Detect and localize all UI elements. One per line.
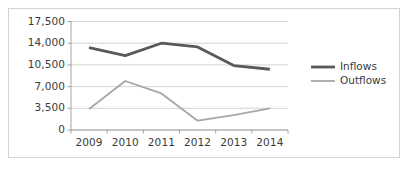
y-axis-tick-marks: [68, 22, 72, 131]
legend-label-inflows: Inflows: [340, 60, 377, 72]
x-axis-tick-label: 2009: [69, 136, 109, 148]
y-axis-tick-label: 0: [58, 123, 65, 135]
y-axis-tick-label: 10,500: [28, 58, 65, 70]
x-axis-tick-label: 2012: [178, 136, 218, 148]
gridlines: [71, 22, 288, 131]
y-axis-tick-label: 17,500: [28, 15, 65, 27]
series-lines: [89, 43, 270, 121]
legend-label-outflows: Outflows: [340, 74, 386, 86]
x-axis-tick-label: 2011: [141, 136, 181, 148]
axis-lines: [71, 22, 288, 131]
series-line-inflows: [89, 43, 270, 69]
y-axis-tick-label: 7,000: [34, 80, 65, 92]
y-axis-tick-label: 14,000: [28, 36, 65, 48]
x-axis-tick-label: 2014: [250, 136, 290, 148]
y-axis-tick-label: 3,500: [34, 101, 65, 113]
x-axis-tick-label: 2013: [214, 136, 254, 148]
x-axis-tick-label: 2010: [105, 136, 145, 148]
legend-swatches: [311, 67, 335, 81]
x-axis-tick-marks: [71, 130, 288, 134]
